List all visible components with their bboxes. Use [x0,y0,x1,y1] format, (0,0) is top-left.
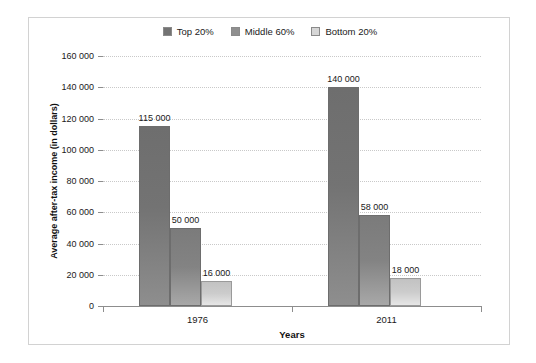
y-axis-tick-label: 120 000 [29,115,94,124]
x-axis-tick [292,306,293,312]
bar-value-label: 16 000 [203,269,231,278]
legend-item-top-20[interactable]: Top 20% [163,27,214,37]
plot-area: 115 00050 00016 000140 00058 00018 000 [103,56,481,306]
y-axis-tick-label: 0 [29,302,94,311]
legend-item-middle-60[interactable]: Middle 60% [231,27,295,37]
bar-value-label: 18 000 [392,266,420,275]
y-axis-tick-label: 160 000 [29,52,94,61]
bar-value-label: 115 000 [139,114,171,123]
x-axis-tick [481,306,482,312]
bar-1976-middle-60[interactable]: 50 000 [170,228,201,306]
y-axis-tick-label: 20 000 [29,271,94,280]
x-axis-title: Years [103,330,481,340]
bar-2011-middle-60[interactable]: 58 000 [359,215,390,306]
y-axis-tick-label: 80 000 [29,177,94,186]
x-axis-group-label-1976: 1976 [103,315,292,325]
bar-2011-bottom-20[interactable]: 18 000 [390,278,421,306]
bar-value-label: 140 000 [327,75,360,84]
bar-1976-top-20[interactable]: 115 000 [139,126,170,306]
legend-swatch-top-20 [163,27,172,36]
y-axis-tick-label: 100 000 [29,146,94,155]
gridline [103,87,481,88]
legend-swatch-bottom-20 [311,27,320,36]
bar-2011-top-20[interactable]: 140 000 [328,87,359,306]
legend-swatch-middle-60 [231,27,240,36]
x-axis-group-label-2011: 2011 [292,315,481,325]
legend-label-middle-60: Middle 60% [245,27,295,37]
y-axis-tick-label: 60 000 [29,208,94,217]
bar-value-label: 50 000 [172,216,200,225]
bar-1976-bottom-20[interactable]: 16 000 [201,281,232,306]
bar-value-label: 58 000 [361,203,389,212]
legend-label-bottom-20: Bottom 20% [325,27,377,37]
chart-frame: Top 20% Middle 60% Bottom 20% Average af… [28,17,510,345]
chart-legend: Top 20% Middle 60% Bottom 20% [29,27,511,37]
y-axis-tick-label: 40 000 [29,240,94,249]
y-axis-tick-label: 140 000 [29,83,94,92]
x-axis-tick [103,306,104,312]
legend-label-top-20: Top 20% [177,27,214,37]
legend-item-bottom-20[interactable]: Bottom 20% [311,27,377,37]
gridline [103,56,481,57]
